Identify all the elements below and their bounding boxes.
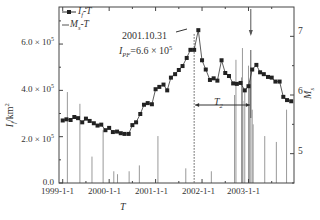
if-marker	[119, 131, 123, 135]
if-marker	[281, 95, 285, 99]
if-marker	[88, 119, 92, 123]
x-tick-label: 2003-1-1	[227, 186, 260, 196]
y-right-axis-title: Ms	[302, 88, 315, 99]
x-axis-title: T	[120, 201, 126, 212]
if-marker	[246, 84, 250, 88]
if-marker	[270, 76, 274, 80]
if-line-series	[61, 28, 293, 136]
if-marker	[76, 116, 80, 120]
if-marker	[273, 80, 277, 84]
if-marker	[220, 58, 224, 62]
if-marker	[157, 85, 161, 89]
if-marker	[161, 83, 165, 87]
legend-entry-if: If-T	[78, 6, 91, 18]
peak-pointer	[176, 29, 187, 32]
if-marker	[239, 81, 243, 85]
if-marker	[154, 87, 158, 91]
y-right-tick-label: 7	[298, 26, 303, 36]
y-left-axis-title: If/km2	[3, 103, 17, 127]
peak-value-annotation: IPF=6.6 × 105	[119, 44, 172, 58]
plot-border	[59, 7, 294, 183]
peak-date-annotation: 2001.10.31	[122, 30, 167, 41]
if-marker	[138, 112, 142, 116]
if-marker	[92, 121, 96, 125]
if-marker	[200, 58, 204, 62]
if-marker	[289, 99, 293, 103]
if-marker	[115, 130, 119, 134]
if-marker	[130, 123, 134, 127]
if-marker	[165, 88, 169, 92]
if-marker	[235, 82, 239, 86]
if-marker	[223, 71, 227, 75]
if-marker	[61, 118, 65, 122]
if-marker	[64, 117, 68, 121]
down-arrow-head	[249, 30, 253, 36]
if-marker	[127, 132, 131, 136]
t2-label: T2	[214, 96, 223, 109]
legend-entry-ms: Ms-T	[70, 19, 89, 31]
axis-ticks	[59, 7, 294, 183]
y-left-tick-label: 2.0 × 105	[21, 133, 54, 144]
if-marker	[84, 117, 88, 121]
if-marker	[215, 79, 219, 83]
if-marker	[188, 48, 192, 52]
if-marker	[80, 120, 84, 124]
x-tick-label: 2000-1-1	[88, 186, 121, 196]
if-marker	[111, 130, 115, 134]
if-marker	[250, 68, 254, 72]
if-marker	[150, 102, 154, 106]
if-marker	[185, 56, 189, 60]
if-marker	[107, 126, 111, 130]
legend-if-marker	[67, 10, 71, 14]
if-marker	[231, 81, 235, 85]
if-marker	[254, 63, 258, 67]
x-tick-label: 2001-1-1	[135, 186, 168, 196]
if-marker	[243, 88, 247, 92]
if-marker	[99, 123, 103, 127]
if-marker	[134, 120, 138, 124]
y-left-tick-label: 6.0 × 105	[21, 36, 54, 47]
if-marker	[181, 64, 185, 68]
if-line	[63, 30, 292, 134]
if-marker	[142, 103, 146, 107]
if-marker	[177, 68, 181, 72]
if-marker	[196, 28, 200, 32]
if-marker	[208, 78, 212, 82]
if-marker	[173, 72, 177, 76]
if-marker	[96, 124, 100, 128]
if-marker	[212, 76, 216, 80]
if-marker	[227, 74, 231, 78]
if-marker	[146, 101, 150, 105]
if-marker	[103, 128, 107, 132]
plot-frame	[59, 7, 294, 183]
if-marker	[262, 72, 266, 76]
if-marker	[69, 118, 73, 122]
y-left-tick-label: 4.0 × 105	[21, 83, 54, 94]
if-marker	[266, 75, 270, 79]
if-marker	[258, 70, 262, 74]
x-tick-label: 2002-1-1	[182, 186, 215, 196]
y-right-tick-label: 5	[298, 146, 303, 156]
if-marker	[278, 80, 282, 84]
t2-arrow-left	[195, 103, 199, 107]
x-tick-label: 1999-1-1	[41, 186, 74, 196]
if-marker	[169, 76, 173, 80]
if-marker	[285, 98, 289, 102]
if-marker	[122, 132, 126, 136]
if-marker	[72, 115, 76, 119]
if-marker	[192, 48, 196, 52]
if-marker	[204, 68, 208, 72]
